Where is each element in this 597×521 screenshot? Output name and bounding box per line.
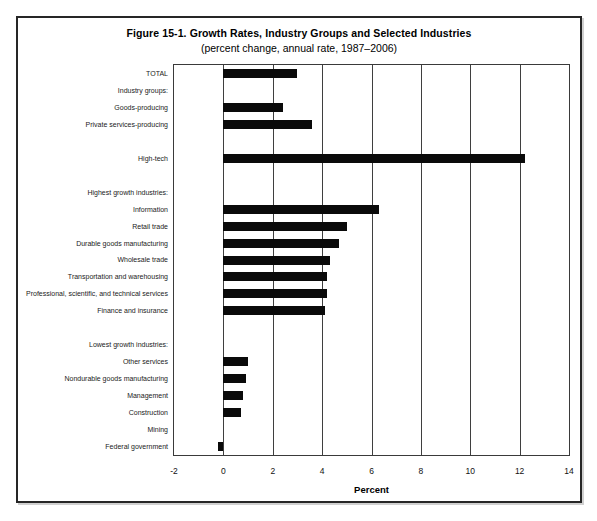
spacer-row xyxy=(18,319,168,336)
x-tick-label: 8 xyxy=(419,466,424,476)
group-header-label: Lowest growth industries: xyxy=(18,336,168,353)
gridline xyxy=(372,65,373,455)
bar-private-services-producing xyxy=(223,120,312,129)
bar-other-services xyxy=(223,357,248,366)
bar-durable-goods-manufacturing xyxy=(223,239,339,248)
bar-construction xyxy=(223,408,240,417)
x-tick-label: 6 xyxy=(369,466,374,476)
category-label: Nondurable goods manufacturing xyxy=(18,370,168,387)
plot-area xyxy=(173,64,570,456)
bar-chart: TOTALIndustry groups:Goods-producingPriv… xyxy=(18,64,580,456)
figure-subtitle: (percent change, annual rate, 1987–2006) xyxy=(18,42,580,54)
x-tick-label: 10 xyxy=(466,466,475,476)
x-tick-label: 2 xyxy=(270,466,275,476)
category-label: TOTAL xyxy=(18,65,168,82)
category-label: Mining xyxy=(18,421,168,438)
x-tick-label: -2 xyxy=(170,466,178,476)
bar-information xyxy=(223,205,379,214)
category-label: Professional, scientific, and technical … xyxy=(18,285,168,302)
group-header-label: Highest growth industries: xyxy=(18,184,168,201)
bar-finance-and-insurance xyxy=(223,306,324,315)
category-label: Goods-producing xyxy=(18,99,168,116)
group-header-label: Industry groups: xyxy=(18,82,168,99)
figure-title: Figure 15-1. Growth Rates, Industry Grou… xyxy=(18,27,580,39)
x-axis-title: Percent xyxy=(173,484,570,495)
bar-professional-scientific-and-technical-services xyxy=(223,289,327,298)
gridline xyxy=(470,65,471,455)
category-label: Private services-producing xyxy=(18,116,168,133)
category-label-column: TOTALIndustry groups:Goods-producingPriv… xyxy=(18,65,168,455)
category-label: Transportation and warehousing xyxy=(18,268,168,285)
category-label: Construction xyxy=(18,404,168,421)
bar-management xyxy=(223,391,243,400)
bar-federal-government xyxy=(218,442,223,451)
category-label: High-tech xyxy=(18,150,168,167)
gridline xyxy=(421,65,422,455)
gridline xyxy=(520,65,521,455)
figure-frame: Figure 15-1. Growth Rates, Industry Grou… xyxy=(16,16,582,503)
category-label: Wholesale trade xyxy=(18,251,168,268)
category-label: Information xyxy=(18,201,168,218)
spacer-row xyxy=(18,133,168,150)
bar-transportation-and-warehousing xyxy=(223,272,327,281)
spacer-row xyxy=(18,167,168,184)
category-label: Retail trade xyxy=(18,218,168,235)
bar-retail-trade xyxy=(223,222,346,231)
bar-wholesale-trade xyxy=(223,256,329,265)
x-tick-label: 12 xyxy=(515,466,524,476)
category-label: Other services xyxy=(18,353,168,370)
category-label: Management xyxy=(18,387,168,404)
category-label: Finance and insurance xyxy=(18,302,168,319)
bar-nondurable-goods-manufacturing xyxy=(223,374,245,383)
bar-total xyxy=(223,69,297,78)
bar-goods-producing xyxy=(223,103,282,112)
category-label: Federal government xyxy=(18,438,168,455)
x-tick-label: 4 xyxy=(320,466,325,476)
bar-high-tech xyxy=(223,154,524,163)
x-tick-label: 0 xyxy=(221,466,226,476)
x-tick-label: 14 xyxy=(564,466,573,476)
x-axis-tick-labels: -202468101214 xyxy=(173,466,570,478)
category-label: Durable goods manufacturing xyxy=(18,235,168,252)
